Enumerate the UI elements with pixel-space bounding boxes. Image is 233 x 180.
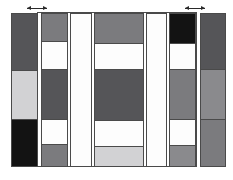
seg-1-1 [12,14,37,70]
seg-2-1 [42,14,67,41]
seg-4-1 [95,14,143,43]
seg-6-2 [170,43,195,69]
seg-1-3 [12,119,37,167]
seg-7-1 [201,14,225,69]
column-3 [70,13,92,167]
seg-4-4 [95,120,143,146]
arrow-head-left-icon [185,6,189,10]
seg-6-1 [170,14,195,43]
column-1 [11,13,38,167]
arrow-head-right-icon [43,6,47,10]
seg-3-1 [71,14,91,167]
seg-1-2 [12,70,37,119]
seg-6-4 [170,119,195,145]
column-4 [94,13,144,167]
left-arrow-marker [27,6,47,12]
column-2 [41,13,68,167]
seg-5-1 [147,14,166,167]
seg-2-4 [42,119,67,144]
arrow-head-left-icon [27,6,31,10]
column-6 [169,13,196,167]
seg-6-5 [170,145,195,167]
seg-2-3 [42,69,67,119]
seg-4-2 [95,43,143,69]
seg-4-5 [95,146,143,167]
seg-7-3 [201,119,225,167]
seg-2-2 [42,41,67,69]
seg-6-3 [170,69,195,119]
column-7 [200,13,226,167]
column-5 [146,13,167,167]
arrow-head-right-icon [201,6,205,10]
seg-4-3 [95,69,143,120]
right-arrow-marker [185,6,205,12]
seg-7-2 [201,69,225,119]
mondrian-color-block-figure [0,0,233,180]
seg-2-5 [42,144,67,167]
